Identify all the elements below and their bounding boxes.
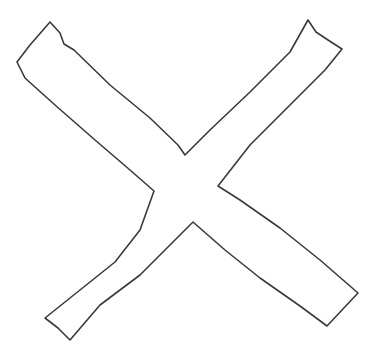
x-cross-outline [17,20,358,340]
x-cross-icon [0,0,378,358]
drawing-canvas [0,0,378,358]
